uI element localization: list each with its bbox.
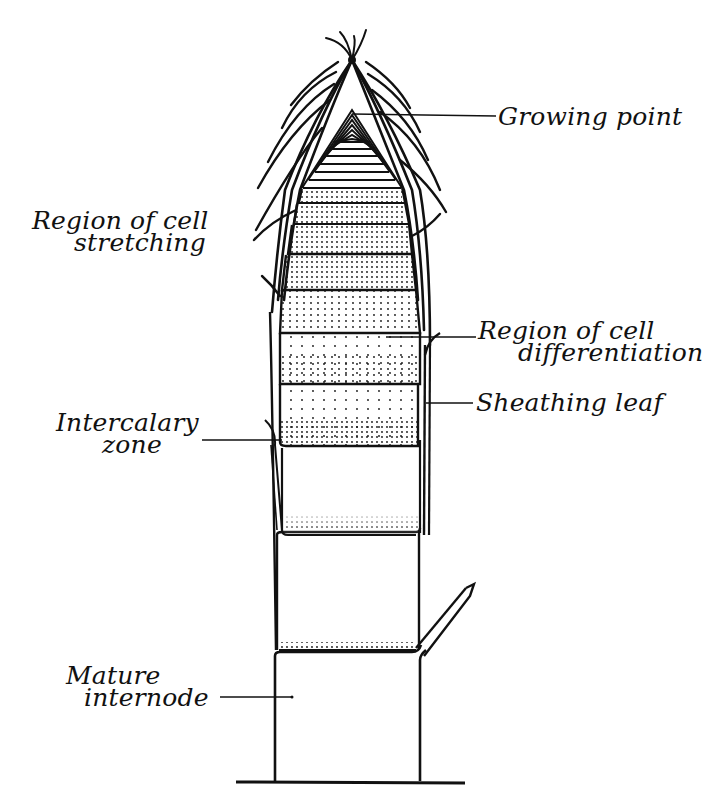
label-sheathing-leaf: Sheathing leaf: [476, 392, 663, 414]
label-intercalary-zone: Intercalary zone: [56, 412, 199, 456]
upper-internode-block: [277, 528, 420, 650]
label-cell-stretching: Region of cell stretching: [32, 210, 209, 254]
lower-leaf-shape: [416, 584, 474, 656]
mature-internode-shape: [275, 645, 426, 781]
label-growing-point: Growing point: [498, 106, 682, 128]
diagram-canvas: Growing point Region of cell stretching …: [0, 0, 724, 810]
apex-tuft: [326, 30, 366, 63]
label-cell-differentiation: Region of cell differentiation: [478, 320, 703, 364]
ground-line: [236, 782, 465, 783]
label-mature-internode: Mature internode: [66, 665, 209, 709]
intercalary-block: [282, 440, 420, 535]
differentiation-bands: [280, 188, 420, 446]
